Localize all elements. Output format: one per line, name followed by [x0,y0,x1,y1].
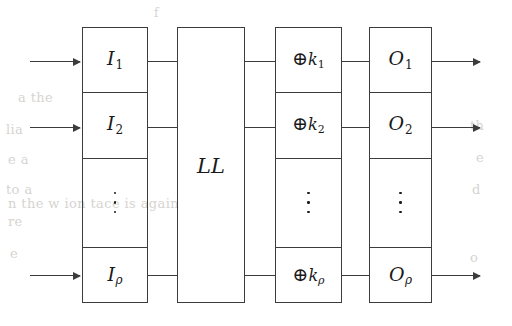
output-label-2: O2 [388,114,412,136]
input-arrow-row-1 [30,61,80,62]
linear-layer-column: LL [177,27,245,303]
input-cell-ellipsis [83,158,147,247]
key-subscript-rho: ρ [318,274,324,287]
input-cell-1: I1 [83,28,147,92]
xor-icon: ⊕ [292,263,308,285]
key-xor-label-2: ⊕k2 [292,114,325,135]
output-label-1: O1 [388,49,412,71]
vertical-dots-icon [114,192,117,214]
input-label-1: I1 [107,49,123,71]
output-cell-1: O1 [370,28,431,92]
key-xor-cell-rho: ⊕kρ [276,247,341,304]
key-xor-column: ⊕k1 ⊕k2 ⊕kρ [275,27,342,303]
input-subscript-1: 1 [115,58,123,72]
input-cell-2: I2 [83,92,147,158]
output-subscript-1: 1 [405,58,413,72]
connector-col1-col2-row-2 [148,127,177,128]
connector-col1-col2-row-1 [148,61,177,62]
input-subscript-rho: ρ [115,273,122,287]
connector-col3-col4-row-1 [342,61,369,62]
key-xor-label-1: ⊕k1 [292,49,325,70]
output-arrow-row-1 [432,61,480,62]
key-xor-label-rho: ⊕kρ [292,265,324,286]
key-subscript-1: 1 [318,59,325,72]
output-subscript-2: 2 [405,123,413,137]
key-xor-cell-2: ⊕k2 [276,92,341,158]
input-arrow-row-4 [30,275,80,276]
input-arrow-row-2 [30,127,80,128]
output-cell-2: O2 [370,92,431,158]
input-label-2: I2 [107,114,123,136]
connector-col2-col3-row-2 [245,127,275,128]
output-cell-ellipsis [370,158,431,247]
output-cell-rho: Oρ [370,247,431,304]
linear-layer-label: LL [197,154,225,178]
linear-layer-cell: LL [178,28,244,304]
connector-col3-col4-row-2 [342,127,369,128]
key-xor-cell-ellipsis [276,158,341,247]
input-cell-rho: Iρ [83,247,147,304]
connector-col1-col2-row-4 [148,275,177,276]
input-column: I1 I2 Iρ [82,27,148,303]
input-subscript-2: 2 [115,123,123,137]
xor-icon: ⊕ [292,112,308,134]
output-arrow-row-2 [432,127,480,128]
output-label-rho: Oρ [389,265,412,287]
xor-icon: ⊕ [292,47,308,69]
block-diagram: I1 I2 Iρ LL ⊕k1 [0,0,512,326]
key-xor-cell-1: ⊕k1 [276,28,341,92]
connector-col2-col3-row-4 [245,275,275,276]
connector-col3-col4-row-4 [342,275,369,276]
key-subscript-2: 2 [318,124,325,137]
vertical-dots-icon [399,192,402,214]
vertical-dots-icon [307,192,310,214]
input-label-rho: Iρ [107,265,122,287]
output-column: O1 O2 Oρ [369,27,432,303]
output-subscript-rho: ρ [405,273,412,287]
connector-col2-col3-row-1 [245,61,275,62]
figure-canvas: f a the lia e a to a n the w ion tace is… [0,0,512,326]
output-arrow-row-4 [432,275,480,276]
